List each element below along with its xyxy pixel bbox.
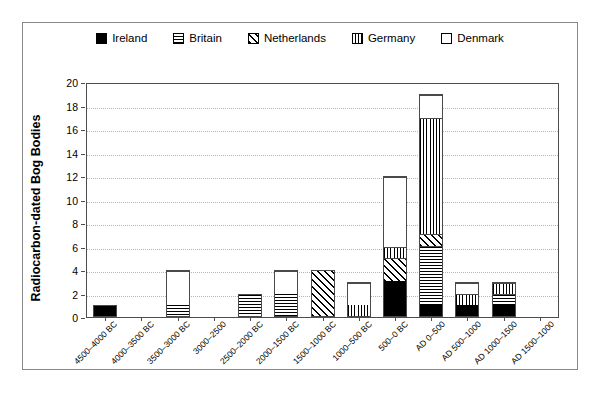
legend-item-britain[interactable]: Britain	[173, 33, 222, 44]
bar-slot	[232, 84, 268, 317]
legend-label: Ireland	[112, 33, 147, 44]
bar-segment-denmark	[167, 271, 189, 305]
y-axis-title-text: Radiocarbon-dated Bog Bodies	[29, 115, 43, 302]
legend-item-ireland[interactable]: Ireland	[96, 33, 147, 44]
bar-segment-denmark	[348, 283, 370, 305]
bar-slot	[268, 84, 304, 317]
bar-segment-denmark	[420, 95, 442, 118]
y-tick-mark	[81, 107, 85, 108]
white-empty-swatch	[441, 33, 452, 44]
plot-area	[86, 83, 559, 318]
bar-segment-britain	[420, 246, 442, 304]
horizontal-lines-swatch	[173, 33, 184, 44]
y-tick-label: 8	[56, 218, 78, 230]
y-tick-mark	[81, 271, 85, 272]
legend-label: Germany	[368, 33, 415, 44]
bar-slot	[304, 84, 340, 317]
stacked-bar[interactable]	[311, 270, 335, 317]
bar-slot	[486, 84, 522, 317]
bar-segment-netherlands	[384, 258, 406, 281]
bar-segment-britain	[493, 294, 515, 305]
bar-segment-netherlands	[312, 271, 334, 316]
legend-item-germany[interactable]: Germany	[352, 33, 415, 44]
bar-slot	[123, 84, 159, 317]
x-tick-label: 500–0 BC	[377, 319, 411, 353]
bar-slot	[522, 84, 558, 317]
stacked-bar[interactable]	[455, 282, 479, 317]
y-axis-title: Radiocarbon-dated Bog Bodies	[27, 83, 45, 333]
bar-segment-britain	[239, 295, 261, 317]
bar-segment-ireland	[94, 306, 116, 316]
figure-frame: IrelandBritainNetherlandsGermanyDenmark …	[22, 22, 578, 370]
y-tick-mark	[81, 248, 85, 249]
stacked-bar[interactable]	[347, 282, 371, 317]
bar-group	[87, 84, 558, 317]
bar-segment-germany	[384, 247, 406, 259]
bar-slot	[196, 84, 232, 317]
bar-slot	[449, 84, 485, 317]
bar-segment-denmark	[384, 177, 406, 247]
stacked-bar[interactable]	[492, 282, 516, 317]
y-tick-label: 14	[56, 148, 78, 160]
legend-item-denmark[interactable]: Denmark	[441, 33, 504, 44]
bar-slot	[159, 84, 195, 317]
bar-segment-ireland	[456, 305, 478, 316]
y-tick-label: 12	[56, 171, 78, 183]
bar-slot	[341, 84, 377, 317]
y-tick-label: 16	[56, 124, 78, 136]
stacked-bar[interactable]	[238, 294, 262, 318]
chart-legend: IrelandBritainNetherlandsGermanyDenmark	[23, 33, 577, 44]
bar-segment-britain	[167, 305, 189, 316]
legend-label: Netherlands	[264, 33, 326, 44]
y-tick-mark	[81, 154, 85, 155]
legend-item-netherlands[interactable]: Netherlands	[248, 33, 326, 44]
y-tick-label: 4	[56, 265, 78, 277]
y-tick-label: 10	[56, 195, 78, 207]
legend-label: Denmark	[457, 33, 504, 44]
vertical-lines-swatch	[352, 33, 363, 44]
solid-black-swatch	[96, 33, 107, 44]
y-tick-mark	[81, 318, 85, 319]
bar-slot	[377, 84, 413, 317]
stacked-bar[interactable]	[383, 176, 407, 317]
bar-segment-germany	[348, 305, 370, 316]
bar-segment-germany	[420, 118, 442, 234]
bar-segment-britain	[275, 294, 297, 316]
legend-label: Britain	[189, 33, 222, 44]
bar-segment-ireland	[493, 305, 515, 316]
stacked-bar[interactable]	[274, 270, 298, 317]
bar-segment-netherlands	[420, 234, 442, 246]
y-tick-label: 20	[56, 77, 78, 89]
y-tick-label: 2	[56, 289, 78, 301]
y-tick-mark	[81, 201, 85, 202]
bar-segment-ireland	[384, 281, 406, 316]
bar-segment-ireland	[420, 304, 442, 316]
bar-slot	[413, 84, 449, 317]
stacked-bar[interactable]	[93, 305, 117, 317]
y-tick-mark	[81, 224, 85, 225]
y-tick-label: 18	[56, 101, 78, 113]
stacked-bar[interactable]	[419, 94, 443, 317]
bar-segment-denmark	[275, 271, 297, 294]
y-tick-label: 6	[56, 242, 78, 254]
y-tick-mark	[81, 130, 85, 131]
bar-slot	[87, 84, 123, 317]
y-tick-label: 0	[56, 312, 78, 324]
x-tick-label: 3000–2500	[191, 319, 228, 356]
y-tick-mark	[81, 83, 85, 84]
stacked-bar[interactable]	[166, 270, 190, 317]
diagonal-hatch-swatch	[248, 33, 259, 44]
y-tick-mark	[81, 177, 85, 178]
x-tick-label: AD 0–500	[413, 319, 447, 353]
x-axis-labels: 4500–4000 BC4000–3500 BC3500–3000 BC3000…	[86, 319, 559, 395]
bar-segment-germany	[493, 283, 515, 294]
y-tick-mark	[81, 295, 85, 296]
bar-segment-denmark	[456, 283, 478, 294]
bar-segment-germany	[456, 294, 478, 305]
